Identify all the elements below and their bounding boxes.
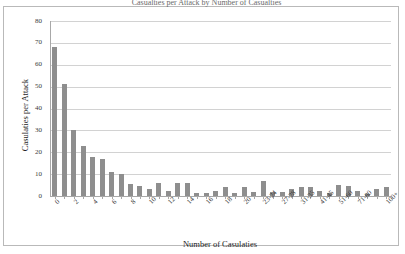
y-axis-tick-label: 60 bbox=[20, 61, 42, 68]
chart-figure: Casualties per Attack by Number of Casua… bbox=[0, 0, 405, 254]
x-axis-tick-label: 18 bbox=[224, 196, 234, 206]
x-axis-tick-label: 6 bbox=[111, 199, 118, 206]
y-axis-title: Casulaties per Attack bbox=[20, 50, 30, 180]
x-axis-tick-label: 10 bbox=[148, 196, 158, 206]
y-axis-tick-label: 0 bbox=[20, 193, 42, 200]
bar bbox=[137, 186, 142, 196]
x-axis-tick-label: 4 bbox=[92, 199, 99, 206]
bar bbox=[299, 187, 304, 196]
x-axis-tick-label: 14 bbox=[186, 196, 196, 206]
bar bbox=[156, 183, 161, 196]
bar bbox=[175, 183, 180, 196]
bar bbox=[62, 84, 67, 196]
bar bbox=[336, 185, 341, 196]
y-axis-tick-label: 80 bbox=[20, 18, 42, 25]
bar bbox=[100, 159, 105, 196]
y-axis-tick-label: 20 bbox=[20, 149, 42, 156]
plot-area: 01020304050607080 bbox=[50, 21, 391, 196]
x-axis-tick-label: 16 bbox=[205, 196, 215, 206]
bar bbox=[71, 130, 76, 196]
bar bbox=[52, 47, 57, 196]
bar bbox=[90, 157, 95, 196]
bar bbox=[119, 174, 124, 196]
bar bbox=[109, 172, 114, 196]
bar bbox=[185, 183, 190, 196]
x-axis-tick-label: 12 bbox=[167, 196, 177, 206]
x-axis-tick-label: 0 bbox=[54, 199, 61, 206]
y-axis-tick-label: 30 bbox=[20, 127, 42, 134]
x-axis-tick-label: 8 bbox=[130, 199, 137, 206]
chart-title: Casualties per Attack by Number of Casua… bbox=[4, 0, 405, 7]
x-axis-tick-label: 20 bbox=[243, 196, 253, 206]
bar bbox=[128, 184, 133, 196]
bar bbox=[261, 181, 266, 196]
bar-series bbox=[50, 21, 391, 196]
y-axis-tick-label: 70 bbox=[20, 39, 42, 46]
x-axis-tick-labels: 0246810121416182023-2427-2831-3541-4551-… bbox=[50, 199, 391, 237]
chart-frame: Casualties per Attack by Number of Casua… bbox=[3, 6, 399, 246]
x-axis-title: Number of Casulaties bbox=[50, 239, 390, 249]
bar bbox=[81, 146, 86, 196]
y-axis-tick-label: 50 bbox=[20, 83, 42, 90]
y-axis-tick-label: 40 bbox=[20, 105, 42, 112]
y-axis-tick-label: 10 bbox=[20, 171, 42, 178]
x-axis-tick-label: 2 bbox=[73, 199, 80, 206]
